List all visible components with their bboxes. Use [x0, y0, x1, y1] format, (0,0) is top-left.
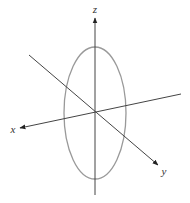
x-axis — [20, 94, 181, 128]
y-axis-label: y — [161, 165, 167, 177]
z-axis-label: z — [92, 3, 98, 15]
y-axis — [29, 55, 158, 165]
x-axis-label: x — [10, 123, 16, 135]
coordinate-diagram: z x y — [0, 0, 190, 203]
